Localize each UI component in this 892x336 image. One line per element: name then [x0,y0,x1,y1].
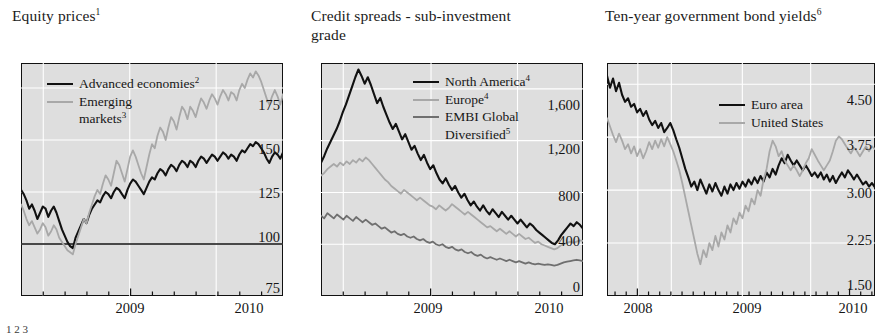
legend-label: Advanced economies2 [79,75,199,93]
legend-label: markets3 [79,110,126,128]
legend-item: Europe4 [413,91,530,109]
legend-swatch-icon [413,99,439,101]
y-axis-tick: 3.00 [847,186,872,200]
panel-title-superscript: 6 [817,7,822,17]
legend-swatch-icon [47,83,73,85]
legend-label: Diversified5 [445,126,510,144]
legend-swatch-icon [413,81,439,83]
panel-bond-yields: Ten-year government bond yields6 Euro ar… [597,0,892,336]
y-axis-tick: 100 [258,230,280,244]
footnote-text: 1 2 3 [6,326,28,335]
legend-item-continuation: Diversified5 [413,126,530,144]
x-axis-tick: 2008 [624,301,653,316]
y-axis-tick: 150 [258,142,280,156]
x-axis-tick: 2009 [116,301,145,316]
legend-item: Emerging [47,93,199,111]
x-axis-tick: 2010 [235,301,264,316]
legend-label: United States [751,114,823,132]
x-axis-tick: 2009 [733,301,762,316]
footnote-strip: 1 2 3 [0,326,892,336]
panel-title: Ten-year government bond yields6 [605,6,888,25]
panel-equity-prices: Equity prices1 Advanced economies2 Emerg… [0,0,295,336]
legend-swatch-icon [47,101,73,103]
legend: Advanced economies2 Emerging markets3 [47,75,199,128]
panel-title-text: Ten-year government bond yields [605,7,817,24]
y-axis-tick: 1.50 [847,278,872,292]
legend-swatch-icon [719,104,745,106]
plot-area: Advanced economies2 Emerging markets3 17… [21,63,283,296]
y-axis-tick: 800 [558,189,580,203]
legend-item-continuation: markets3 [47,110,199,128]
y-axis-tick: 2.25 [847,233,872,247]
legend-label: Europe4 [445,91,488,109]
y-axis-tick: 75 [266,281,281,295]
y-axis-tick: 400 [558,234,580,248]
panel-title: Equity prices1 [12,6,291,25]
panel-title: Credit spreads - sub-investment grade [311,6,593,44]
panel-credit-spreads: Credit spreads - sub-investment grade No… [297,0,597,336]
legend-swatch-icon [413,116,439,118]
plot-area: Euro area United States 4.50 3.75 3.00 2… [607,63,875,296]
legend-item: Advanced economies2 [47,75,199,93]
legend-label: North America4 [445,73,530,91]
y-axis-tick: 0 [573,280,580,294]
legend: North America4 Europe4 EMBI Global Diver… [413,73,530,143]
y-axis-tick: 1,200 [547,142,580,156]
legend-item: Euro area [719,96,823,114]
x-axis-tick: 2010 [535,301,564,316]
panel-title-superscript: 1 [96,7,101,17]
legend-item: North America4 [413,73,530,91]
plot-area: North America4 Europe4 EMBI Global Diver… [321,63,583,296]
legend-label: EMBI Global [445,108,519,126]
legend: Euro area United States [719,96,823,131]
panel-title-line-1: Credit spreads - sub-investment [311,7,511,24]
y-axis-tick: 125 [258,186,280,200]
panel-title-line-2: grade [311,26,346,43]
legend-swatch-icon [719,122,745,124]
y-axis-tick: 175 [258,98,280,112]
legend-item: United States [719,114,823,132]
x-axis-tick: 2010 [839,301,868,316]
legend-label: Emerging [79,93,132,111]
x-axis-tick: 2009 [414,301,443,316]
legend-label: Euro area [751,96,803,114]
legend-item: EMBI Global [413,108,530,126]
y-axis-tick: 1,600 [547,98,580,112]
panel-title-text: Equity prices [12,7,96,24]
y-axis-tick: 3.75 [847,138,872,152]
y-axis-tick: 4.50 [847,93,872,107]
